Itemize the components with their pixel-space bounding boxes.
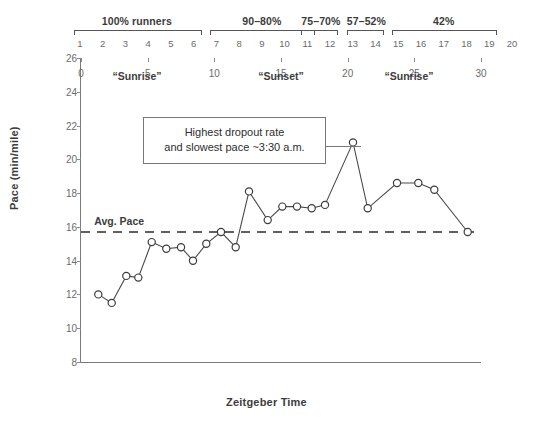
hour-tick-label: 15 — [391, 38, 405, 49]
data-point-marker — [349, 139, 356, 146]
y-tick-label: 10 — [55, 323, 77, 334]
callout-line-2: and slowest pace ~3:30 a.m. — [150, 140, 319, 155]
x-tick-mark — [348, 58, 349, 62]
callout-annotation: Highest dropout rate and slowest pace ~3… — [143, 117, 326, 164]
group-bracket — [347, 30, 384, 35]
phase-sunrise-2: “Sunrise” — [384, 70, 433, 82]
group-label: 100% runners — [74, 15, 200, 27]
y-tick-label: 12 — [55, 289, 77, 300]
x-tick-mark — [481, 58, 482, 62]
group-bracket — [74, 30, 202, 35]
callout-line-1: Highest dropout rate — [150, 125, 319, 140]
hour-tick-label: 14 — [369, 38, 383, 49]
group-label: 57–52% — [347, 15, 382, 27]
x-axis-title: Zeitgeber Time — [0, 396, 533, 408]
data-point-marker — [293, 203, 300, 210]
hour-tick-label: 5 — [164, 38, 178, 49]
top-hour-axis: 1234567891011121314151617181920100% runn… — [0, 0, 533, 56]
data-point-marker — [203, 240, 210, 247]
y-tick-label: 14 — [55, 255, 77, 266]
y-tick-mark — [77, 193, 81, 194]
hour-tick-label: 10 — [278, 38, 292, 49]
group-label: 75–70% — [301, 15, 336, 27]
x-tick-mark — [148, 58, 149, 62]
hour-tick-label: 11 — [300, 38, 314, 49]
x-tick-mark — [281, 58, 282, 62]
data-point-marker — [415, 179, 422, 186]
data-point-marker — [364, 205, 371, 212]
group-label: 90–80% — [210, 15, 313, 27]
data-point-marker — [148, 239, 155, 246]
y-tick-label: 18 — [55, 188, 77, 199]
data-point-marker — [163, 245, 170, 252]
data-point-marker — [95, 291, 102, 298]
data-point-marker — [232, 244, 239, 251]
pace-polyline — [98, 142, 467, 303]
x-tick-label: 30 — [466, 68, 496, 79]
data-point-marker — [308, 205, 315, 212]
data-point-marker — [177, 244, 184, 251]
hour-tick-label: 2 — [96, 38, 110, 49]
hour-tick-label: 4 — [141, 38, 155, 49]
hour-tick-label: 1 — [73, 38, 87, 49]
x-tick-label: 10 — [199, 68, 229, 79]
y-tick-mark — [77, 362, 81, 363]
hour-tick-label: 17 — [437, 38, 451, 49]
data-point-marker — [279, 203, 286, 210]
data-point-marker — [431, 186, 438, 193]
data-point-marker — [189, 257, 196, 264]
chart-figure: 1234567891011121314151617181920100% runn… — [0, 0, 533, 428]
y-tick-mark — [77, 159, 81, 160]
hour-tick-label: 8 — [232, 38, 246, 49]
data-point-marker — [393, 179, 400, 186]
y-tick-mark — [77, 126, 81, 127]
y-axis-title: Pace (min/mile) — [8, 126, 20, 210]
data-point-marker — [321, 201, 328, 208]
data-point-marker — [464, 228, 471, 235]
y-tick-mark — [77, 92, 81, 93]
data-point-marker — [264, 217, 271, 224]
y-tick-label: 16 — [55, 221, 77, 232]
hour-tick-label: 20 — [505, 38, 519, 49]
phase-sunrise-1: “Sunrise” — [112, 70, 161, 82]
group-bracket — [301, 30, 338, 35]
y-tick-mark — [77, 328, 81, 329]
data-point-marker — [135, 274, 142, 281]
data-point-marker — [245, 188, 252, 195]
phase-sunset: “Sunset” — [258, 70, 304, 82]
x-tick-mark — [414, 58, 415, 62]
data-point-marker — [108, 299, 115, 306]
hour-tick-label: 3 — [118, 38, 132, 49]
hour-tick-label: 13 — [346, 38, 360, 49]
y-tick-label: 8 — [55, 357, 77, 368]
hour-tick-label: 6 — [187, 38, 201, 49]
callout-leader-line — [326, 146, 361, 147]
x-tick-label: 20 — [333, 68, 363, 79]
data-point-marker — [123, 272, 130, 279]
y-tick-mark — [77, 261, 81, 262]
hour-tick-label: 7 — [209, 38, 223, 49]
hour-tick-label: 12 — [323, 38, 337, 49]
plot-area: 8101214161820222426051015202530Avg. Pace… — [80, 58, 481, 363]
group-bracket — [210, 30, 315, 35]
pace-line-series — [81, 58, 481, 362]
hour-tick-label: 16 — [414, 38, 428, 49]
x-tick-label: 0 — [66, 68, 96, 79]
avg-pace-label: Avg. Pace — [94, 215, 144, 227]
x-tick-mark — [214, 58, 215, 62]
group-bracket — [392, 30, 497, 35]
data-point-marker — [217, 228, 224, 235]
y-tick-label: 24 — [55, 86, 77, 97]
hour-tick-label: 18 — [460, 38, 474, 49]
x-tick-mark — [81, 58, 82, 62]
y-tick-mark — [77, 227, 81, 228]
hour-tick-label: 9 — [255, 38, 269, 49]
hour-tick-label: 19 — [482, 38, 496, 49]
y-tick-label: 20 — [55, 154, 77, 165]
y-tick-label: 26 — [55, 53, 77, 64]
y-tick-label: 22 — [55, 120, 77, 131]
y-tick-mark — [77, 294, 81, 295]
group-label: 42% — [392, 15, 495, 27]
